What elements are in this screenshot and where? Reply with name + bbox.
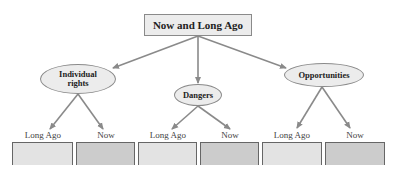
- branch-label: Dangers: [183, 91, 213, 100]
- branch-label: Opportunities: [298, 71, 349, 80]
- leaf-label-individual-now: Now: [75, 130, 137, 140]
- answer-box-opportunities-now: [325, 142, 385, 165]
- leaf-label-dangers-long-ago: Long Ago: [137, 130, 199, 140]
- answer-box-individual-long-ago: [12, 142, 73, 165]
- leaf-label-dangers-now: Now: [199, 130, 261, 140]
- answer-box-dangers-now: [200, 142, 259, 165]
- answer-box-opportunities-long-ago: [262, 142, 322, 165]
- leaf-label-individual-long-ago: Long Ago: [12, 130, 74, 140]
- branch-node-opportunities: Opportunities: [284, 63, 364, 87]
- answer-box-individual-now: [76, 142, 135, 165]
- branch-node-individual-rights: Individual rights: [40, 64, 116, 94]
- root-node-label: Now and Long Ago: [153, 19, 243, 31]
- leaf-label-opportunities-now: Now: [324, 130, 386, 140]
- answer-box-dangers-long-ago: [138, 142, 197, 165]
- leaf-label-opportunities-long-ago: Long Ago: [261, 130, 323, 140]
- root-node: Now and Long Ago: [144, 14, 252, 36]
- branch-label-line2: rights: [59, 79, 97, 88]
- branch-node-dangers: Dangers: [174, 84, 222, 106]
